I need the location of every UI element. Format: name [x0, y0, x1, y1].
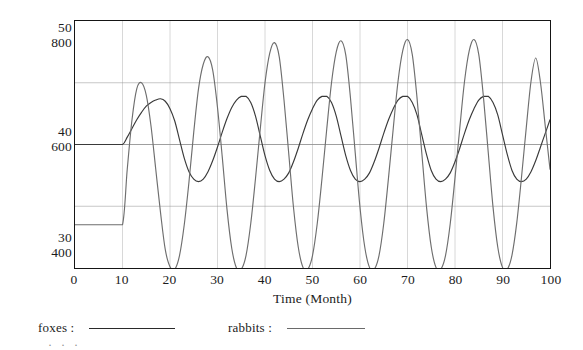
x-tick-80: 80 [449, 272, 463, 288]
x-tick-10: 10 [115, 272, 129, 288]
x-tick-70: 70 [401, 272, 415, 288]
chart-legend: foxes : rabbits : [38, 320, 558, 350]
x-tick-60: 60 [353, 272, 367, 288]
y-axis-tick-group-top: 50 800 [14, 21, 72, 50]
legend-line-swatch-rabbits [287, 328, 365, 329]
x-tick-90: 90 [496, 272, 510, 288]
x-tick-40: 40 [258, 272, 272, 288]
x-axis-ticks: 0102030405060708090100 [74, 272, 551, 292]
legend-label-rabbits: rabbits : [228, 320, 272, 336]
legend-line-swatch-foxes [89, 328, 175, 329]
plot-area [74, 20, 551, 269]
legend-overflow-text: · · · [48, 338, 81, 350]
x-tick-0: 0 [71, 272, 78, 288]
x-tick-100: 100 [541, 272, 562, 288]
x-tick-50: 50 [306, 272, 320, 288]
x-tick-20: 20 [162, 272, 176, 288]
y-axis-tick-group-bottom: 30 400 [14, 231, 72, 260]
legend-label-foxes: foxes : [38, 320, 74, 336]
y-tick-foxes-50: 50 [14, 21, 72, 36]
chart-container: 50 800 40 600 30 400 0102030405060708090… [0, 0, 583, 350]
y-tick-rabbits-400: 400 [14, 246, 72, 261]
legend-item-foxes[interactable]: foxes : [38, 320, 175, 336]
y-tick-rabbits-600: 600 [14, 140, 72, 155]
legend-item-rabbits[interactable]: rabbits : [228, 320, 365, 336]
y-axis-tick-group-middle: 40 600 [14, 125, 72, 154]
x-tick-30: 30 [210, 272, 224, 288]
plot-svg [75, 21, 550, 268]
x-axis-title: Time (Month) [74, 291, 551, 307]
y-tick-foxes-30: 30 [14, 231, 72, 246]
y-tick-foxes-40: 40 [14, 125, 72, 140]
y-tick-rabbits-800: 800 [14, 36, 72, 51]
